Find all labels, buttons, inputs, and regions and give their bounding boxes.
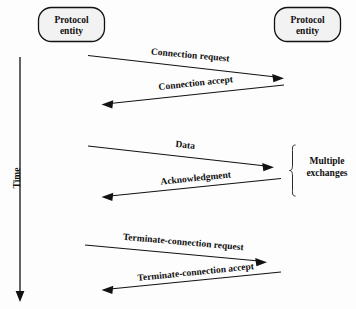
message-terminate-connection-accept: Terminate-connection accept: [102, 261, 282, 294]
message-data: Data: [88, 139, 274, 171]
message-terminate-connection-accept-label: Terminate-connection accept: [137, 261, 255, 283]
time-axis-label: Time: [12, 168, 22, 189]
protocol-entity-left: Protocol entity: [39, 8, 105, 42]
message-connection-accept-arrowhead: [102, 100, 114, 108]
entity-right-label-line2: entity: [296, 26, 319, 36]
entity-left-label-line2: entity: [60, 26, 83, 36]
message-connection-request-label: Connection request: [151, 46, 231, 63]
entity-right-label-line1: Protocol: [290, 15, 324, 25]
message-terminate-connection-request: Terminate-connection request: [85, 232, 267, 266]
multiple-exchanges-annotation: Multiple exchanges: [290, 145, 348, 196]
message-connection-accept: Connection accept: [102, 74, 285, 108]
protocol-sequence-diagram: Protocol entity Protocol entity Time Con…: [0, 0, 356, 309]
message-acknowledgment-arrowhead: [102, 193, 114, 201]
message-acknowledgment: Acknowledgment: [102, 169, 282, 201]
protocol-entity-right: Protocol entity: [275, 8, 341, 42]
entity-left-box: [39, 8, 105, 42]
entity-right-box: [275, 8, 341, 42]
time-axis: Time: [12, 57, 24, 302]
message-connection-request-arrowhead: [272, 74, 284, 82]
message-data-label: Data: [175, 139, 196, 151]
message-terminate-connection-request-arrowhead: [255, 258, 267, 266]
time-axis-arrowhead: [16, 291, 25, 302]
multiple-exchanges-label-line1: Multiple: [310, 156, 345, 166]
message-connection-accept-label: Connection accept: [158, 74, 234, 92]
diagram-canvas: Protocol entity Protocol entity Time Con…: [0, 0, 356, 309]
multiple-exchanges-label-line2: exchanges: [306, 168, 347, 178]
message-data-arrowhead: [262, 163, 274, 171]
message-terminate-connection-accept-arrowhead: [102, 286, 114, 294]
message-connection-request: Connection request: [88, 46, 284, 82]
message-terminate-connection-request-label: Terminate-connection request: [122, 232, 244, 253]
multiple-exchanges-brace: [290, 145, 296, 196]
entity-left-label-line1: Protocol: [54, 15, 88, 25]
